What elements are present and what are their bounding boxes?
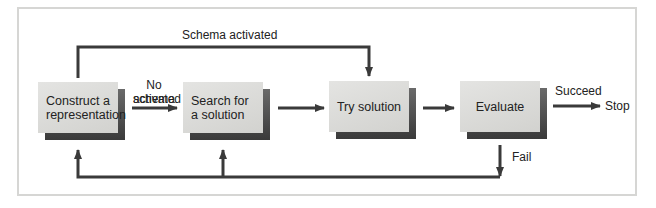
node-label: Search for a solution [183, 82, 263, 133]
node-construct-representation: Construct a representation [38, 82, 118, 133]
label-fail: Fail [512, 150, 531, 164]
node-label: Construct a representation [38, 82, 118, 133]
node-search-solution: Search for a solution [183, 82, 263, 133]
node-label: Try solution [329, 81, 409, 132]
node-try-solution: Try solution [329, 81, 409, 132]
label-schema-activated: Schema activated [182, 28, 277, 42]
node-evaluate: Evaluate [460, 81, 540, 132]
label-no-schema-line2: activated [133, 92, 177, 106]
label-stop: Stop [605, 99, 630, 113]
label-succeed: Succeed [555, 84, 602, 98]
node-label: Evaluate [460, 81, 540, 132]
